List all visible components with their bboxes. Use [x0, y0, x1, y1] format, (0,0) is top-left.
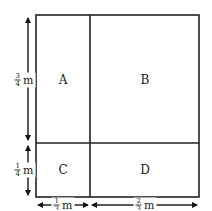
dim-bottom-left: 1 3 m — [52, 198, 75, 211]
dim-left-bottom: 1 4 m — [13, 163, 36, 178]
region-c-label: C — [58, 163, 67, 177]
dim-bottom-right: 2 3 m — [134, 198, 157, 211]
region-b-label: B — [141, 73, 150, 87]
region-a-label: A — [59, 73, 68, 87]
dim-left-top: 3 4 m — [13, 73, 36, 88]
fraction: 1 4 — [15, 163, 21, 178]
fraction: 3 4 — [15, 73, 21, 88]
fraction: 1 3 — [54, 198, 60, 211]
diagram-canvas — [0, 0, 212, 210]
region-d-label: D — [140, 163, 150, 177]
fraction: 2 3 — [136, 198, 142, 211]
